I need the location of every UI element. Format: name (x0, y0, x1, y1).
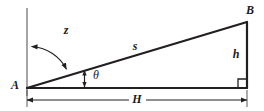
label-vertex-b: B (245, 3, 254, 17)
label-vertex-a: A (10, 78, 19, 92)
label-horizontal-distance-H: H (131, 92, 142, 106)
label-height-h: h (233, 47, 240, 61)
label-elevation-angle-theta: θ (93, 68, 99, 82)
hypotenuse-line (27, 22, 247, 88)
zenith-angle-arc (32, 47, 67, 70)
geometry-figure-svg: A B s z θ h H (0, 0, 264, 111)
geometry-figure: A B s z θ h H (0, 0, 264, 111)
label-zenith-angle-z: z (63, 23, 69, 37)
label-hypotenuse-s: s (132, 39, 138, 53)
right-angle-marker (238, 79, 247, 88)
